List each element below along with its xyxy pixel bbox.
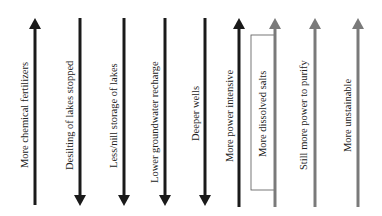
label-power-intensive: More power intensive [224, 70, 236, 162]
label-power-to-purify: Still more power to purify [298, 60, 310, 170]
label-deeper-wells: Deeper wells [190, 86, 202, 141]
arrow-up-icon [309, 18, 321, 207]
diagram-canvas: More chemical fertilizers Desilting of l… [0, 0, 382, 216]
label-dissolved-salts: More dissolved salts [257, 71, 269, 157]
arrow-up-icon [269, 18, 281, 207]
label-lake-storage: Less/nill storage of lakes [108, 63, 120, 168]
label-unsustainable: More unstainable [342, 79, 354, 152]
label-chemical-fertilizers: More chemical fertilizers [19, 62, 31, 168]
label-desilting-stopped: Desilting of lakes stopped [64, 61, 76, 170]
label-groundwater-recharge: Lower groundwater recharge [149, 61, 161, 183]
